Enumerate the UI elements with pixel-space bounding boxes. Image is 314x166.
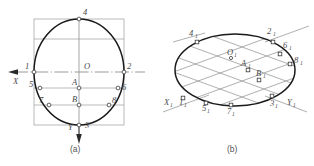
label-point-4: 4 (83, 7, 88, 17)
svg-text:1: 1 (232, 111, 235, 117)
point-marker-5 (38, 86, 42, 90)
label-point-8-1: 8 1 (294, 55, 303, 66)
label-point-8: 8 (112, 95, 117, 105)
caption-b: (b) (227, 144, 238, 154)
label-point-4-1: 4 1 (189, 28, 198, 39)
svg-text:1: 1 (195, 33, 198, 39)
point-marker-b-1 (257, 78, 261, 82)
label-point-6-1: 6 1 (283, 40, 292, 51)
label-point-o-1: O 1 (227, 47, 237, 58)
label-point-5-1: 5 1 (202, 103, 210, 114)
svg-text:1: 1 (248, 63, 251, 69)
point-marker-a (77, 86, 81, 90)
label-y-axis: Y (68, 122, 74, 132)
point-marker-8 (107, 103, 111, 107)
svg-text:1: 1 (273, 31, 276, 37)
point-marker-2 (122, 70, 126, 74)
label-point-1: 1 (25, 61, 29, 71)
svg-text:2: 2 (267, 26, 272, 36)
svg-text:1: 1 (300, 60, 303, 66)
point-marker-8-1 (288, 62, 292, 66)
svg-text:1: 1 (179, 97, 183, 107)
label-x-axis: X (12, 76, 19, 86)
svg-text:B: B (256, 68, 261, 78)
svg-text:1: 1 (184, 102, 187, 108)
label-point-1-1: 1 1 (179, 97, 187, 108)
label-y1-axis: Y 1 (287, 97, 296, 108)
point-marker-4 (77, 17, 81, 21)
label-point-3: 3 (84, 120, 89, 130)
y-axis-arrow-icon (76, 134, 82, 144)
svg-text:1: 1 (289, 45, 292, 51)
point-marker-6 (116, 86, 120, 90)
label-point-5: 5 (29, 79, 33, 89)
label-point-2: 2 (127, 61, 132, 71)
label-origin: O (84, 61, 90, 71)
svg-text:1: 1 (234, 52, 237, 58)
svg-text:8: 8 (294, 55, 299, 65)
label-point-3-1: 3 1 (269, 98, 278, 109)
label-point-b-1: B 1 (256, 68, 266, 79)
label-point-b: B (72, 94, 77, 104)
point-marker-1 (32, 70, 36, 74)
svg-text:1: 1 (263, 73, 266, 79)
svg-text:6: 6 (283, 40, 288, 50)
svg-text:A: A (240, 58, 247, 68)
point-marker-b (77, 103, 81, 107)
point-marker-4-1 (195, 40, 199, 44)
caption-a: (a) (70, 144, 81, 154)
label-point-7-1: 7 1 (227, 106, 235, 117)
label-point-2-1: 2 1 (267, 26, 276, 37)
figure-b-svg: 4 1 2 1 6 1 8 1 O 1 A 1 (157, 0, 314, 166)
label-point-6: 6 (122, 82, 127, 92)
svg-text:1: 1 (275, 103, 278, 109)
figure-a-orthographic-view: 1 2 3 4 5 6 7 8 A B O X Y (a) (0, 0, 157, 166)
figure-a-svg: 1 2 3 4 5 6 7 8 A B O X Y (a) (0, 0, 157, 166)
figure-canvas: 1 2 3 4 5 6 7 8 A B O X Y (a) (0, 0, 314, 166)
svg-text:5: 5 (202, 103, 206, 113)
point-marker-7 (47, 103, 51, 107)
svg-text:X: X (163, 97, 170, 107)
point-marker-2-1 (271, 40, 275, 44)
svg-text:O: O (227, 47, 233, 57)
x-axis-arrow-icon (8, 69, 18, 75)
label-point-a-1: A 1 (240, 58, 251, 69)
label-point-a: A (71, 77, 78, 87)
svg-text:3: 3 (269, 98, 274, 108)
svg-text:1: 1 (293, 102, 296, 108)
svg-text:1: 1 (170, 102, 173, 108)
figure-b-isometric-view: 4 1 2 1 6 1 8 1 O 1 A 1 (157, 0, 314, 166)
label-x1-axis: X 1 (163, 97, 173, 108)
svg-text:1: 1 (207, 108, 210, 114)
point-marker-3 (77, 123, 81, 127)
point-marker-6-1 (278, 52, 282, 56)
